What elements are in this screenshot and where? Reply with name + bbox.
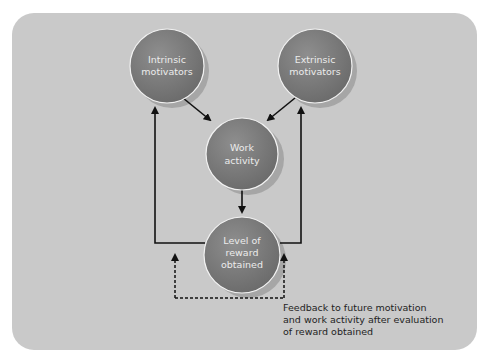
node-work-activity: Work activity — [206, 118, 278, 190]
feedback-caption: Feedback to future motivation and work a… — [283, 302, 463, 338]
node-extrinsic-motivators: Extrinsic motivators — [278, 29, 352, 103]
node-intrinsic-motivators: Intrinsic motivators — [130, 29, 204, 103]
svg-text:motivators: motivators — [289, 66, 340, 77]
node-level-of-reward-obtained: Level of reward obtained — [204, 217, 280, 293]
svg-text:obtained: obtained — [221, 259, 263, 270]
svg-text:activity: activity — [224, 155, 259, 166]
svg-text:motivators: motivators — [141, 66, 192, 77]
svg-text:Extrinsic: Extrinsic — [295, 54, 336, 65]
svg-text:reward: reward — [226, 247, 259, 258]
caption-line: and work activity after evaluation — [283, 314, 463, 326]
svg-text:Work: Work — [230, 142, 255, 153]
svg-text:Intrinsic: Intrinsic — [148, 54, 186, 65]
caption-line: Feedback to future motivation — [283, 302, 463, 314]
svg-text:Level of: Level of — [223, 235, 261, 246]
caption-line: of reward obtained — [283, 326, 463, 338]
